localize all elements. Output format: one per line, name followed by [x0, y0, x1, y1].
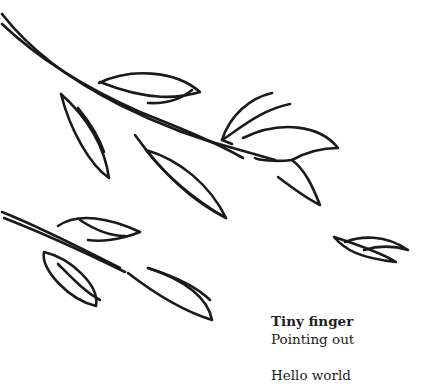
lower-branch-stem-double: [4, 218, 125, 272]
caption-subtitle: Pointing out: [271, 330, 354, 348]
leaf-right-drop: [278, 160, 320, 205]
leaf-lower-oval: [44, 252, 97, 306]
leaf-curl-upper-inner: [222, 140, 232, 144]
leafy-branch-illustration: [0, 0, 428, 388]
caption-title: Tiny finger: [271, 312, 354, 330]
leaf-long-center-vein: [146, 150, 226, 218]
leaf-top: [99, 73, 200, 97]
caption-block: Tiny finger Pointing out Hello world: [271, 312, 354, 384]
leaf-lower-oval-inner: [58, 264, 100, 300]
caption-greeting: Hello world: [271, 366, 354, 384]
leaf-droop-left: [61, 94, 109, 178]
canvas: Tiny finger Pointing out Hello world: [0, 0, 428, 388]
leaf-lower-right-vein: [148, 268, 210, 300]
leaf-long-center: [135, 135, 226, 218]
